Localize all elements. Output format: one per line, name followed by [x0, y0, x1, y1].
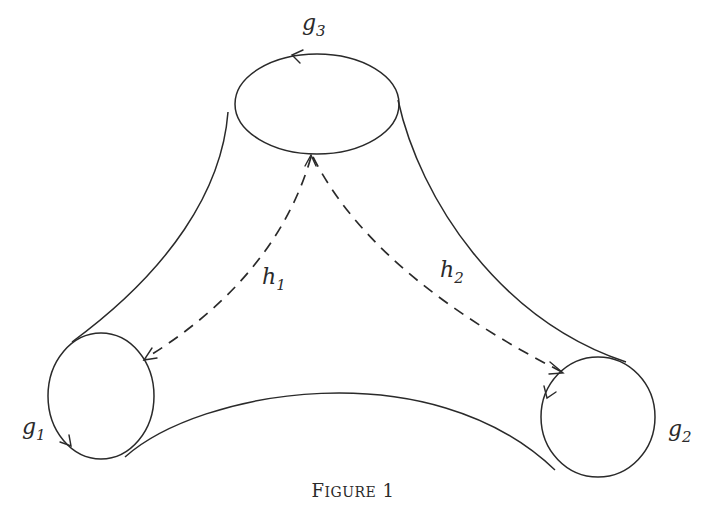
bottom-curve	[125, 393, 555, 470]
figure-caption: FIGURE 1	[0, 480, 706, 501]
arc-h2	[313, 157, 562, 372]
arc-h1	[146, 157, 311, 358]
g3-orientation-arrow-icon	[292, 50, 303, 63]
left-outer-curve	[72, 112, 228, 342]
pair-of-pants-diagram: g3 g1 g2 h1 h2	[0, 0, 706, 514]
boundary-g1	[48, 333, 154, 459]
label-h2: h2	[440, 257, 464, 287]
g2-orientation-arrow-icon	[544, 386, 556, 398]
right-outer-curve	[398, 100, 626, 362]
label-g2: g2	[668, 416, 692, 446]
label-g1: g1	[22, 414, 46, 444]
boundary-g3	[235, 54, 399, 154]
boundary-g2	[541, 357, 655, 477]
label-g3: g3	[302, 10, 326, 40]
h1-arrowhead-icon	[144, 348, 157, 360]
label-h1: h1	[262, 264, 286, 294]
g1-orientation-arrow-icon	[60, 435, 71, 446]
